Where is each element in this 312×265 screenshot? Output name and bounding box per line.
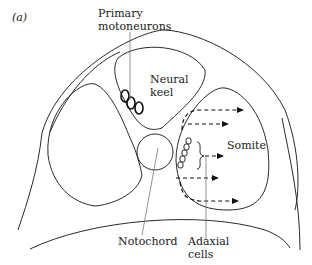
- adaxial-cells-label-2: cells: [188, 249, 213, 261]
- primary-motoneurons-label-2: motoneurons: [98, 21, 171, 33]
- primary-motoneurons: [121, 90, 143, 114]
- embryo-cross-section-diagram: [0, 0, 312, 265]
- neural-keel-label-2: keel: [150, 87, 173, 99]
- right-flank: [282, 118, 300, 250]
- inner-arc: [50, 52, 120, 132]
- notochord-label: Notochord: [118, 236, 177, 248]
- left-somite-outline: [48, 84, 142, 206]
- primary-motoneurons-label-1: Primary: [98, 8, 143, 20]
- adaxial-brace: [197, 142, 204, 169]
- somite-label: Somite: [227, 140, 266, 152]
- arrow-heads: [212, 107, 244, 204]
- panel-label: (a): [12, 12, 27, 24]
- neural-keel-label-1: Neural: [150, 74, 189, 86]
- left-flank: [18, 133, 42, 230]
- notochord-leader: [142, 148, 158, 235]
- adaxial-cells: [178, 138, 191, 168]
- adaxial-cells-label-1: Adaxial: [188, 236, 229, 248]
